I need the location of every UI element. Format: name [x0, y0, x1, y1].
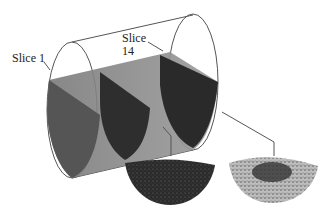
slice-1-label: Slice 1	[12, 52, 45, 65]
slice-1-cross-section	[125, 159, 215, 205]
drum-diagram	[0, 0, 334, 214]
slice-14-label-line2: 14	[122, 45, 134, 58]
slice-14-dark-core	[252, 162, 292, 182]
